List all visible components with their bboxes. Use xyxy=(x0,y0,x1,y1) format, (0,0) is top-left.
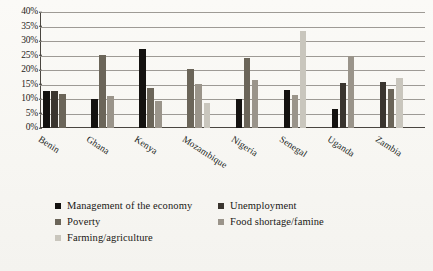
bar-slot xyxy=(388,12,395,128)
bar xyxy=(300,31,307,128)
legend-row: PovertyFood shortage/famine xyxy=(55,216,415,227)
bar xyxy=(139,49,146,128)
x-axis-label: Benin xyxy=(37,134,62,155)
bar-slot xyxy=(147,12,154,128)
legend-label: Unemployment xyxy=(230,200,297,211)
y-axis-tick-label: 5% xyxy=(26,109,38,119)
y-axis: 40%35%30%25%20%15%10%5%0% xyxy=(6,12,38,132)
y-axis-tick-label: 35% xyxy=(21,22,38,32)
x-axis-label-cell: Kenya xyxy=(136,130,184,190)
bar-group xyxy=(377,12,425,128)
bar-slot xyxy=(340,12,347,128)
y-axis-tick-label: 0% xyxy=(26,123,38,133)
bar-slot xyxy=(332,12,339,128)
bar xyxy=(332,109,339,128)
bar-slot xyxy=(51,12,58,128)
bar xyxy=(195,84,202,128)
bar xyxy=(51,91,58,128)
bar xyxy=(43,91,50,128)
bar xyxy=(59,94,66,128)
bar-group xyxy=(40,12,88,128)
bar-slot xyxy=(396,12,403,128)
bar-slot xyxy=(252,12,259,128)
legend-label: Farming/agriculture xyxy=(67,232,153,243)
bar xyxy=(292,95,299,128)
bar-slot xyxy=(59,12,66,128)
legend-swatch-icon xyxy=(55,235,61,241)
bar xyxy=(284,90,291,128)
bar xyxy=(244,58,251,128)
y-axis-tick-label: 10% xyxy=(21,94,38,104)
y-axis-tick-label: 15% xyxy=(21,80,38,90)
x-axis-label-cell: Benin xyxy=(40,130,88,190)
bar-slot xyxy=(204,12,211,128)
bar-slot xyxy=(236,12,243,128)
bar xyxy=(252,80,259,128)
bar xyxy=(388,89,395,128)
bar-slot xyxy=(43,12,50,128)
legend-item[interactable]: Poverty xyxy=(55,216,218,227)
bar-slot xyxy=(91,12,98,128)
bar xyxy=(107,96,114,128)
bar-group xyxy=(88,12,136,128)
y-axis-tick-label: 30% xyxy=(21,36,38,46)
bar-slot xyxy=(348,12,355,128)
bar-slot xyxy=(244,12,251,128)
bar-groups xyxy=(40,12,425,128)
legend-swatch-icon xyxy=(55,203,61,209)
bar-slot xyxy=(292,12,299,128)
bar-slot xyxy=(300,12,307,128)
bar xyxy=(340,83,347,128)
legend-item[interactable]: Management of the economy xyxy=(55,200,218,211)
bar-slot xyxy=(99,12,106,128)
bar xyxy=(155,101,162,128)
bar xyxy=(147,88,154,128)
x-axis-label-cell: Senegal xyxy=(281,130,329,190)
bar xyxy=(187,69,194,128)
y-axis-tick-label: 25% xyxy=(21,51,38,61)
bar-slot xyxy=(284,12,291,128)
legend-label: Management of the economy xyxy=(67,200,192,211)
x-axis-label: Nigeria xyxy=(229,134,259,158)
legend-label: Poverty xyxy=(67,216,100,227)
chart-legend: Management of the economyUnemploymentPov… xyxy=(55,200,415,248)
x-axis-label-cell: Nigeria xyxy=(233,130,281,190)
legend-row: Management of the economyUnemployment xyxy=(55,200,415,211)
legend-row: Farming/agriculture xyxy=(55,232,415,243)
bar-slot xyxy=(107,12,114,128)
legend-item[interactable]: Food shortage/famine xyxy=(218,216,398,227)
bar-group xyxy=(329,12,377,128)
x-axis-label: Senegal xyxy=(277,134,308,159)
bar xyxy=(204,103,211,128)
bar xyxy=(91,99,98,128)
x-axis-label: Zambia xyxy=(373,134,403,159)
bar xyxy=(99,55,106,128)
bar-slot xyxy=(187,12,194,128)
bar-slot xyxy=(139,12,146,128)
bar xyxy=(348,56,355,128)
bar-slot xyxy=(380,12,387,128)
x-axis-label-cell: Ghana xyxy=(88,130,136,190)
bar xyxy=(380,82,387,128)
bar-group xyxy=(233,12,281,128)
bar xyxy=(396,78,403,128)
legend-item[interactable]: Farming/agriculture xyxy=(55,232,218,243)
x-axis-label-cell: Uganda xyxy=(329,130,377,190)
bar xyxy=(236,99,243,128)
legend-swatch-icon xyxy=(218,219,224,225)
legend-item[interactable]: Unemployment xyxy=(218,200,398,211)
legend-swatch-icon xyxy=(55,219,61,225)
x-axis-label: Mozambique xyxy=(181,134,229,170)
bar-chart: 40%35%30%25%20%15%10%5%0% BeninGhanaKeny… xyxy=(0,0,433,271)
bar-slot xyxy=(155,12,162,128)
legend-label: Food shortage/famine xyxy=(230,216,324,227)
x-axis-label: Uganda xyxy=(325,134,356,159)
y-axis-tick-label: 20% xyxy=(21,65,38,75)
bar-group xyxy=(184,12,232,128)
y-axis-tick-label: 40% xyxy=(21,7,38,17)
bar-group xyxy=(136,12,184,128)
legend-swatch-icon xyxy=(218,203,224,209)
bar-group xyxy=(281,12,329,128)
x-axis-label: Ghana xyxy=(85,134,112,156)
x-axis-label-cell: Mozambique xyxy=(184,130,232,190)
